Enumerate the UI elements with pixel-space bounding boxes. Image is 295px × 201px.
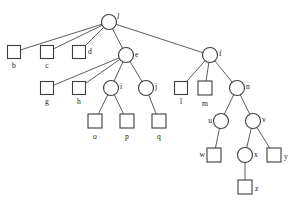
circle-node-shape-x[interactable]	[238, 148, 253, 163]
circle-node-shape-e[interactable]	[119, 48, 134, 63]
tree-node-o[interactable]: o	[88, 114, 102, 141]
square-node-shape-m[interactable]	[198, 81, 212, 95]
node-label-f: f	[219, 49, 222, 58]
square-node-shape-d[interactable]	[73, 46, 86, 59]
tree-node-x[interactable]: x	[238, 148, 259, 163]
tree-diagram-canvas: lbcdefghijlmnopquvwxyz	[0, 0, 295, 201]
circle-node-shape-v[interactable]	[246, 114, 261, 129]
circle-node-shape-a[interactable]	[102, 15, 117, 30]
tree-node-w[interactable]: w	[200, 148, 221, 162]
square-node-shape-w[interactable]	[207, 148, 221, 162]
tree-edge-a-d	[86, 27, 104, 45]
tree-edge-i-o	[98, 95, 107, 114]
tree-edge-n-u	[224, 95, 233, 115]
node-label-l: l	[180, 97, 182, 106]
tree-node-v[interactable]: v	[246, 114, 267, 129]
node-label-q: q	[157, 132, 161, 141]
tree-edge-v-x	[247, 128, 252, 147]
tree-node-z[interactable]: z	[238, 180, 259, 194]
square-node-shape-p[interactable]	[120, 114, 134, 128]
tree-edge-i-p	[114, 95, 123, 114]
tree-edge-f-n	[215, 61, 233, 82]
square-node-shape-q[interactable]	[152, 114, 166, 128]
circle-node-shape-j[interactable]	[139, 81, 154, 96]
tree-edge-a-e	[112, 29, 122, 49]
node-label-j: j	[154, 82, 157, 91]
tree-edge-u-w	[215, 128, 219, 148]
tree-node-g[interactable]: g	[41, 82, 54, 107]
node-label-g: g	[45, 97, 49, 106]
square-node-shape-c[interactable]	[41, 46, 54, 59]
square-node-shape-h[interactable]	[73, 82, 86, 95]
square-node-shape-y[interactable]	[267, 148, 281, 162]
tree-node-m[interactable]: m	[198, 81, 212, 108]
square-node-shape-l[interactable]	[175, 82, 188, 95]
tree-node-n[interactable]: n	[230, 81, 251, 96]
node-label-v: v	[262, 115, 266, 124]
square-node-shape-g[interactable]	[41, 82, 54, 95]
node-label-i: i	[120, 82, 122, 91]
tree-node-q[interactable]: q	[152, 114, 166, 141]
tree-edge-e-j	[130, 61, 142, 81]
node-label-u: u	[208, 116, 212, 125]
node-label-z: z	[255, 184, 259, 193]
square-node-shape-o[interactable]	[88, 114, 102, 128]
edge-layer	[21, 24, 270, 180]
tree-node-p[interactable]: p	[120, 114, 134, 141]
circle-node-shape-f[interactable]	[203, 48, 218, 63]
tree-edge-f-l	[187, 61, 205, 82]
tree-edge-n-v	[240, 95, 249, 115]
node-label-a: l	[117, 12, 120, 21]
circle-node-shape-n[interactable]	[230, 81, 245, 96]
tree-edge-j-q	[149, 95, 156, 114]
square-node-shape-z[interactable]	[238, 180, 252, 194]
node-label-o: o	[93, 132, 97, 141]
tree-node-b[interactable]: b	[8, 46, 21, 71]
node-label-m: m	[202, 99, 208, 108]
node-label-d: d	[88, 47, 92, 56]
node-label-h: h	[77, 97, 81, 106]
node-label-b: b	[12, 61, 16, 70]
node-label-c: c	[45, 61, 49, 70]
node-label-w: w	[200, 150, 206, 159]
square-node-shape-b[interactable]	[8, 46, 21, 59]
node-label-p: p	[125, 132, 129, 141]
tree-node-h[interactable]: h	[73, 82, 86, 107]
tree-node-d[interactable]: d	[73, 46, 93, 59]
tree-node-a[interactable]: l	[102, 12, 121, 30]
tree-node-f[interactable]: f	[203, 48, 223, 63]
tree-node-i[interactable]: i	[104, 81, 123, 96]
tree-node-c[interactable]: c	[41, 46, 54, 71]
circle-node-shape-u[interactable]	[214, 114, 229, 129]
tree-node-e[interactable]: e	[119, 48, 140, 63]
tree-node-j[interactable]: j	[139, 81, 158, 96]
node-label-e: e	[135, 50, 139, 59]
tree-node-u[interactable]: u	[208, 114, 228, 129]
circle-node-shape-i[interactable]	[104, 81, 119, 96]
node-label-y: y	[284, 152, 288, 161]
tree-svg: lbcdefghijlmnopquvwxyz	[0, 0, 295, 201]
tree-edge-f-m	[206, 62, 209, 81]
tree-node-l[interactable]: l	[175, 82, 188, 107]
node-layer: lbcdefghijlmnopquvwxyz	[8, 12, 289, 194]
tree-node-y[interactable]: y	[267, 148, 288, 162]
tree-edge-v-y	[257, 127, 270, 148]
tree-edge-e-i	[114, 62, 123, 81]
node-label-n: n	[246, 82, 250, 91]
node-label-x: x	[254, 150, 258, 159]
